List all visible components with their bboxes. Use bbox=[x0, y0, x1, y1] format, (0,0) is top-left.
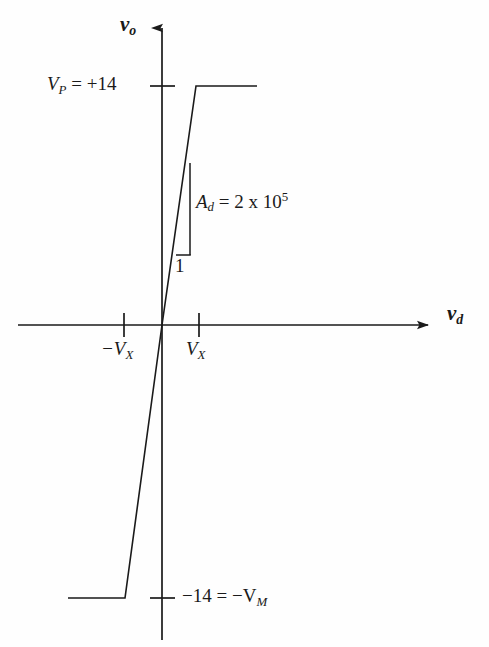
negative-saturation-value: −14 = −V bbox=[182, 585, 256, 606]
gain-exponent: 5 bbox=[282, 189, 288, 204]
gain-symbol: A bbox=[196, 191, 208, 212]
slope-run-label: 1 bbox=[175, 256, 185, 275]
negative-saturation-label: −14 = −VM bbox=[182, 586, 267, 609]
positive-saturation-subscript: P bbox=[59, 82, 67, 97]
y-axis-label: vo bbox=[120, 14, 136, 38]
x-axis-label-subscript: d bbox=[456, 312, 463, 327]
plot-canvas bbox=[0, 0, 489, 647]
transfer-characteristic-figure: vo vd VP = +14 Ad = 2 x 105 1 −VX VX −14… bbox=[0, 0, 489, 647]
gain-label: Ad = 2 x 105 bbox=[196, 191, 288, 214]
y-axis-label-subscript: o bbox=[129, 23, 136, 38]
x-axis-label: vd bbox=[447, 303, 463, 327]
gain-value: = 2 x 10 bbox=[214, 191, 282, 212]
positive-saturation-label: VP = +14 bbox=[47, 74, 116, 97]
y-axis-label-main: v bbox=[120, 12, 129, 36]
negative-vx-symbol: −V bbox=[101, 338, 125, 359]
positive-saturation-value: = +14 bbox=[67, 73, 117, 94]
positive-vx-symbol: V bbox=[186, 338, 198, 359]
x-axis-label-main: v bbox=[447, 301, 456, 325]
negative-saturation-subscript: M bbox=[256, 594, 267, 609]
tick-label-positive-vx: VX bbox=[186, 339, 206, 362]
tick-label-negative-vx: −VX bbox=[101, 339, 133, 362]
positive-vx-subscript: X bbox=[198, 347, 206, 362]
positive-saturation-symbol: V bbox=[47, 73, 59, 94]
negative-vx-subscript: X bbox=[125, 347, 133, 362]
